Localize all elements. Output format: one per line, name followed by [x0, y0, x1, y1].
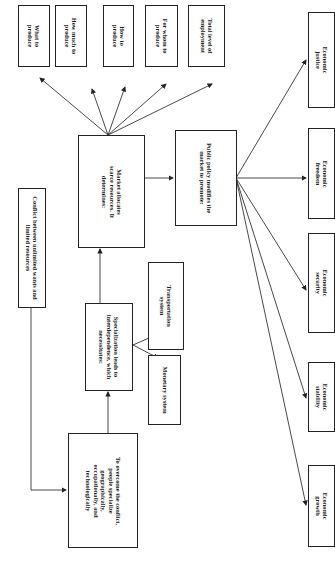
- node-policy: Public policy modifies the market to pro…: [175, 130, 237, 226]
- node-growth: Economic growth: [308, 465, 335, 547]
- node-for-whom: For whom to produce: [145, 5, 178, 67]
- node-how-much: How much to produce: [55, 5, 87, 67]
- node-transportation: Transportation system: [148, 262, 184, 350]
- node-justice: Economic justice: [308, 12, 335, 108]
- node-justice-label: Economic justice: [314, 40, 329, 80]
- node-monetary-label: Monetary system: [161, 365, 168, 415]
- node-growth-label: Economic growth: [314, 486, 329, 526]
- node-monetary: Monetary system: [148, 355, 181, 425]
- node-market-label: Market allocates scarce resources. It de…: [100, 161, 122, 223]
- node-specialization: Specialization leads to interdependence,…: [85, 303, 133, 391]
- node-security-label: Economic security: [314, 263, 329, 303]
- node-how-much-label: How much to produce: [64, 14, 79, 58]
- node-specialization-label: Specialization leads to interdependence,…: [98, 307, 120, 387]
- node-employment: Total level of employment: [188, 5, 225, 67]
- node-stability: Economic stability: [308, 362, 335, 432]
- node-overcome: To overcome the conflict, people special…: [68, 433, 138, 548]
- node-what: What to produce: [18, 5, 50, 67]
- node-transportation-label: Transportation system: [159, 276, 174, 336]
- node-how: How to produce: [103, 5, 134, 67]
- node-conflict-label: Conflict between unlimited wants and lim…: [25, 193, 40, 303]
- node-for-whom-label: For whom to produce: [154, 14, 169, 58]
- node-overcome-label: To overcome the conflict, people special…: [84, 456, 121, 526]
- node-freedom: Economic freedom: [308, 128, 335, 219]
- node-how-label: How to produce: [111, 16, 126, 56]
- node-security: Economic security: [308, 233, 335, 333]
- node-conflict: Conflict between unlimited wants and lim…: [18, 188, 46, 308]
- node-stability-label: Economic stability: [314, 377, 329, 417]
- node-what-label: What to produce: [27, 16, 42, 56]
- node-employment-label: Total level of employment: [199, 11, 214, 61]
- node-freedom-label: Economic freedom: [314, 154, 329, 194]
- node-market: Market allocates scarce resources. It de…: [78, 135, 145, 248]
- node-policy-label: Public policy modifies the market to pro…: [199, 134, 214, 222]
